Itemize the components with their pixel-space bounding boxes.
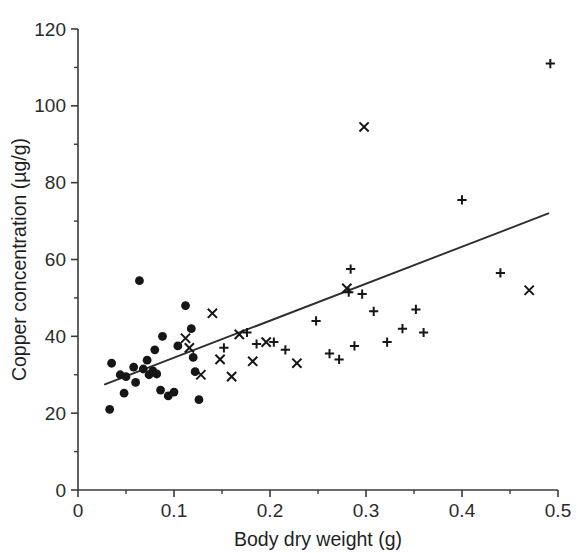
x-tick-label: 0.1 bbox=[161, 500, 187, 521]
marker-circle bbox=[122, 372, 131, 381]
marker-circle bbox=[156, 386, 165, 395]
x-tick-label: 0 bbox=[73, 500, 84, 521]
marker-circle bbox=[195, 395, 204, 404]
marker-plus bbox=[457, 195, 466, 204]
marker-circle bbox=[170, 388, 179, 397]
y-tick-label: 60 bbox=[45, 249, 66, 270]
x-tick-label: 0.3 bbox=[353, 500, 379, 521]
marker-circle bbox=[181, 301, 190, 310]
marker-plus bbox=[369, 307, 378, 316]
marker-plus bbox=[219, 343, 228, 352]
marker-plus bbox=[411, 305, 420, 314]
marker-plus bbox=[398, 324, 407, 333]
marker-cross bbox=[292, 359, 301, 368]
marker-circle bbox=[187, 324, 196, 333]
x-axis: 00.10.20.30.40.5 bbox=[73, 490, 572, 521]
marker-circle bbox=[150, 345, 159, 354]
y-tick-label: 20 bbox=[45, 403, 66, 424]
marker-cross bbox=[181, 334, 190, 343]
y-tick-label: 120 bbox=[34, 19, 66, 40]
marker-plus bbox=[419, 328, 428, 337]
marker-plus bbox=[252, 339, 261, 348]
marker-circle bbox=[107, 359, 116, 368]
marker-cross bbox=[227, 372, 236, 381]
marker-circle bbox=[105, 405, 114, 414]
marker-plus bbox=[546, 59, 555, 68]
y-tick-label: 40 bbox=[45, 326, 66, 347]
x-axis-title: Body dry weight (g) bbox=[234, 528, 402, 550]
marker-plus bbox=[383, 337, 392, 346]
marker-plus bbox=[325, 349, 334, 358]
marker-plus bbox=[496, 268, 505, 277]
y-tick-label: 0 bbox=[55, 480, 66, 501]
marker-plus bbox=[335, 355, 344, 364]
series-plus bbox=[219, 59, 555, 364]
marker-circle bbox=[173, 342, 182, 351]
marker-circle bbox=[135, 276, 144, 285]
marker-cross bbox=[215, 355, 224, 364]
trend-line bbox=[105, 213, 549, 384]
x-tick-label: 0.5 bbox=[545, 500, 571, 521]
marker-cross bbox=[525, 286, 534, 295]
marker-circle bbox=[189, 353, 198, 362]
plot-canvas: 020406080100120 00.10.20.30.40.5 Copper … bbox=[0, 0, 581, 553]
scatter-chart-figure: 020406080100120 00.10.20.30.40.5 Copper … bbox=[0, 0, 581, 553]
marker-plus bbox=[358, 289, 367, 298]
marker-plus bbox=[281, 345, 290, 354]
marker-plus bbox=[350, 341, 359, 350]
marker-circle bbox=[152, 370, 161, 379]
y-axis: 020406080100120 bbox=[34, 19, 78, 501]
marker-plus bbox=[346, 265, 355, 274]
marker-circle bbox=[129, 363, 138, 372]
marker-circle bbox=[120, 389, 129, 398]
y-tick-label: 100 bbox=[34, 95, 66, 116]
marker-cross bbox=[208, 309, 217, 318]
series-cross bbox=[181, 122, 534, 381]
marker-plus bbox=[311, 316, 320, 325]
x-tick-label: 0.2 bbox=[257, 500, 283, 521]
series-circle bbox=[105, 276, 203, 413]
marker-circle bbox=[158, 332, 167, 341]
y-tick-label: 80 bbox=[45, 172, 66, 193]
marker-circle bbox=[131, 378, 140, 387]
regression-line bbox=[105, 213, 549, 384]
marker-cross bbox=[248, 357, 257, 366]
x-tick-label: 0.4 bbox=[449, 500, 476, 521]
y-axis-title: Copper concentration (µg/g) bbox=[8, 138, 30, 381]
marker-cross bbox=[359, 122, 368, 131]
marker-circle bbox=[143, 356, 152, 365]
